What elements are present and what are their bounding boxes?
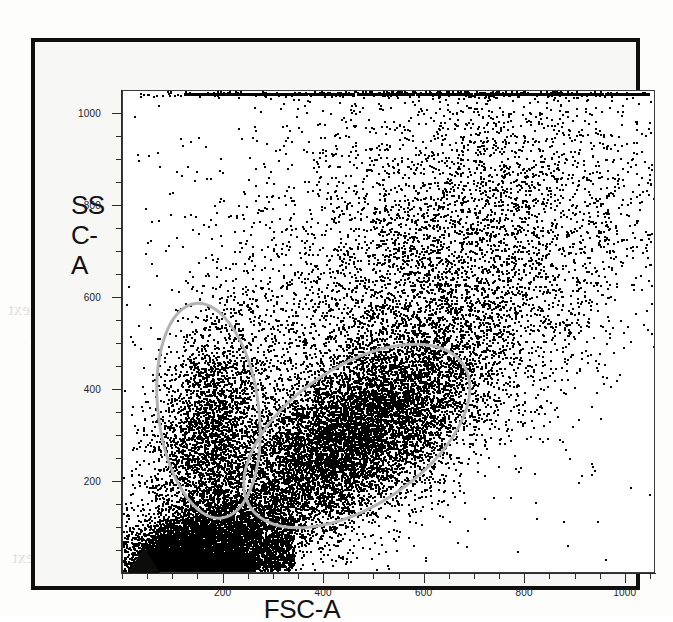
y-tick-minor xyxy=(116,366,121,367)
y-tick-label: 800 xyxy=(61,200,101,211)
x-tick-minor xyxy=(248,574,249,579)
x-tick-minor xyxy=(298,574,299,579)
x-tick-minor xyxy=(147,574,148,579)
y-tick-major xyxy=(112,297,121,298)
y-tick-major xyxy=(112,481,121,482)
x-tick-minor xyxy=(373,574,374,579)
x-tick-label: 1000 xyxy=(613,587,636,598)
x-axis-title: FSC-A xyxy=(237,594,367,622)
x-tick-major xyxy=(223,574,224,583)
x-tick-label: 800 xyxy=(516,587,533,598)
y-tick-minor xyxy=(116,435,121,436)
y-tick-minor xyxy=(116,159,121,160)
gate-overlay-layer[interactable] xyxy=(123,91,655,573)
origin-triangle-marker xyxy=(128,547,160,573)
y-tick-minor xyxy=(116,412,121,413)
x-tick-minor xyxy=(197,574,198,579)
x-tick-major xyxy=(524,574,525,583)
x-tick-major xyxy=(424,574,425,583)
y-tick-label: 200 xyxy=(61,476,101,487)
y-axis-title-line-3: A xyxy=(71,250,105,280)
x-tick-major xyxy=(323,574,324,583)
gate-ellipse-lymphocyte-gate[interactable] xyxy=(145,297,271,524)
y-tick-minor xyxy=(116,251,121,252)
y-tick-major xyxy=(112,205,121,206)
y-tick-minor xyxy=(116,343,121,344)
gate-ellipse-monocyte-granulocyte-gate[interactable] xyxy=(212,307,502,565)
x-tick-minor xyxy=(575,574,576,579)
x-tick-minor xyxy=(449,574,450,579)
y-tick-major xyxy=(112,389,121,390)
y-tick-label: 600 xyxy=(61,292,101,303)
x-tick-major xyxy=(625,574,626,583)
y-tick-major xyxy=(112,113,121,114)
y-tick-minor xyxy=(116,228,121,229)
y-tick-label: 1000 xyxy=(61,108,101,119)
x-tick-minor xyxy=(499,574,500,579)
x-tick-minor xyxy=(650,574,651,579)
x-tick-minor xyxy=(172,574,173,579)
y-tick-minor xyxy=(116,527,121,528)
x-axis-line xyxy=(121,573,656,574)
scatter-plot-panel[interactable] xyxy=(122,90,655,573)
y-axis-title-line-2: C- xyxy=(71,220,105,250)
y-tick-minor xyxy=(116,136,121,137)
x-tick-minor xyxy=(348,574,349,579)
x-tick-minor xyxy=(549,574,550,579)
x-tick-label: 200 xyxy=(214,587,231,598)
y-tick-minor xyxy=(116,504,121,505)
x-tick-minor xyxy=(399,574,400,579)
y-tick-label: 400 xyxy=(61,384,101,395)
x-tick-minor xyxy=(273,574,274,579)
x-tick-minor xyxy=(474,574,475,579)
y-tick-minor xyxy=(116,550,121,551)
y-tick-minor xyxy=(116,320,121,321)
y-tick-minor xyxy=(116,458,121,459)
x-tick-minor xyxy=(600,574,601,579)
y-tick-minor xyxy=(116,274,121,275)
x-tick-minor xyxy=(122,574,123,579)
figure-frame: SS C- A FSC-A 10008006004002002004006008… xyxy=(31,38,640,590)
x-tick-label: 600 xyxy=(415,587,432,598)
y-tick-minor xyxy=(116,182,121,183)
x-tick-label: 400 xyxy=(314,587,331,598)
